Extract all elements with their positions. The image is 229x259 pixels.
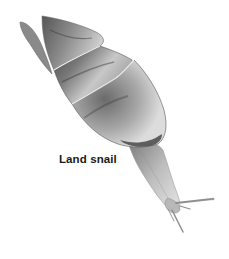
snail-head (165, 198, 215, 232)
figure-canvas: Land snail (0, 0, 229, 259)
land-snail-illustration (0, 0, 229, 259)
snail-shell (20, 16, 166, 147)
figure-label: Land snail (59, 153, 117, 165)
